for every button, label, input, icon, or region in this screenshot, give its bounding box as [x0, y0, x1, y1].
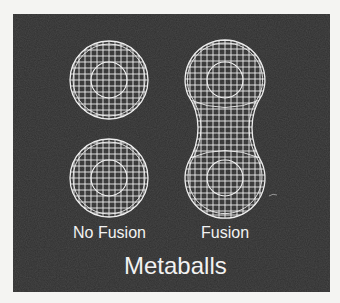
label-fusion: Fusion [201, 225, 249, 241]
figure-panel: No Fusion Fusion Metaballs [13, 14, 330, 292]
no-fusion-bottom-sphere [70, 139, 148, 217]
artifact-mark [269, 194, 277, 196]
fusion-blob [180, 30, 270, 230]
label-no-fusion: No Fusion [73, 225, 146, 241]
figure-title: Metaballs [124, 254, 227, 278]
no-fusion-top-sphere [70, 41, 148, 119]
metaballs-illustration [13, 14, 330, 292]
